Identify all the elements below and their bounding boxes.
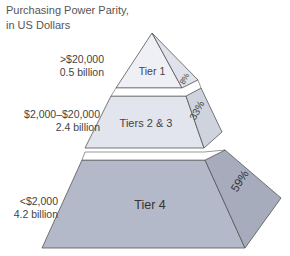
tier-1-population: 0.5 billion: [60, 66, 104, 79]
tier-2-3-label: $2,000–$20,000 2.4 billion: [24, 108, 100, 134]
tier-2-3-range: $2,000–$20,000: [24, 108, 100, 121]
tier-4-block: Tier 4 59%: [42, 150, 281, 248]
tier-4-top-ledge: [82, 150, 225, 160]
tier-1-label: >$20,000 0.5 billion: [60, 53, 104, 79]
tier-4-label: <$2,000 4.2 billion: [14, 195, 58, 221]
tier-4-name: Tier 4: [134, 198, 166, 212]
tier-1-range: >$20,000: [60, 53, 104, 66]
tier-4-range: <$2,000: [14, 195, 58, 208]
tier-2-3-block: Tiers 2 & 3 33%: [85, 88, 222, 148]
tier-1-block: Tier 1 8%: [116, 33, 198, 88]
tier-2-3-name: Tiers 2 & 3: [120, 117, 173, 129]
tier-1-name: Tier 1: [139, 65, 166, 77]
tier-4-population: 4.2 billion: [14, 208, 58, 221]
tier-2-3-population: 2.4 billion: [24, 121, 100, 134]
